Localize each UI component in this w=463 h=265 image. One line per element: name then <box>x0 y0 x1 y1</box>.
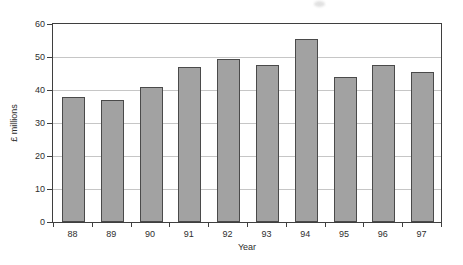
x-tick-label-91: 91 <box>169 229 208 240</box>
x-tick-label-97: 97 <box>402 229 441 240</box>
y-tick-mark-50 <box>47 57 52 58</box>
y-tick-mark-20 <box>47 156 52 157</box>
y-tick-mark-40 <box>47 90 52 91</box>
x-tick-mark-1 <box>92 223 93 227</box>
bar-91 <box>178 67 201 222</box>
y-tick-label-10: 10 <box>0 184 45 194</box>
bar-94 <box>295 39 318 222</box>
x-tick-mark-5 <box>247 223 248 227</box>
bar-97 <box>411 72 434 222</box>
bar-92 <box>217 59 240 222</box>
y-tick-label-20: 20 <box>0 151 45 161</box>
x-tick-label-95: 95 <box>325 229 364 240</box>
x-tick-label-88: 88 <box>53 229 92 240</box>
plot-area <box>52 23 442 223</box>
x-tick-mark-0 <box>53 223 54 227</box>
x-tick-mark-7 <box>325 223 326 227</box>
x-tick-label-94: 94 <box>286 229 325 240</box>
scan-artifact-smudge <box>314 1 325 7</box>
x-axis-title: Year <box>52 242 442 252</box>
x-tick-label-96: 96 <box>363 229 402 240</box>
bar-88 <box>62 97 85 222</box>
x-tick-mark-10 <box>441 223 442 227</box>
bar-90 <box>140 87 163 222</box>
bar-89 <box>101 100 124 222</box>
chart-root: £ millions Year 010203040506088899091929… <box>0 0 463 265</box>
y-tick-label-60: 60 <box>0 19 45 29</box>
gridline-50 <box>53 57 441 58</box>
x-tick-mark-2 <box>131 223 132 227</box>
x-tick-label-89: 89 <box>92 229 131 240</box>
x-tick-mark-8 <box>363 223 364 227</box>
y-tick-mark-10 <box>47 189 52 190</box>
x-tick-label-90: 90 <box>131 229 170 240</box>
y-tick-label-50: 50 <box>0 52 45 62</box>
x-tick-label-92: 92 <box>208 229 247 240</box>
x-tick-mark-6 <box>286 223 287 227</box>
x-tick-mark-9 <box>402 223 403 227</box>
y-tick-mark-30 <box>47 123 52 124</box>
bar-93 <box>256 65 279 222</box>
y-tick-mark-0 <box>47 222 52 223</box>
x-tick-mark-3 <box>169 223 170 227</box>
y-tick-mark-60 <box>47 24 52 25</box>
x-tick-label-93: 93 <box>247 229 286 240</box>
bar-95 <box>334 77 357 222</box>
y-tick-label-30: 30 <box>0 118 45 128</box>
y-tick-label-0: 0 <box>0 217 45 227</box>
x-tick-mark-4 <box>208 223 209 227</box>
y-tick-label-40: 40 <box>0 85 45 95</box>
bar-96 <box>372 65 395 222</box>
